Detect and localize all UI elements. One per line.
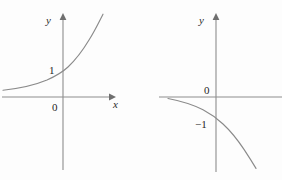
y-tick-label-minus-1: −1 [195,118,207,130]
left-chart-svg: y x 1 0 [0,0,141,180]
y-tick-label-1: 1 [49,64,55,76]
chart-panel-left: y x 1 0 [0,0,141,180]
chart-panel-right: y 0 −1 [141,0,282,180]
y-axis-arrow-icon [60,13,67,20]
y-axis-label: y [198,14,204,26]
x-axis-label: x [112,98,118,110]
decreasing-curve [168,99,256,169]
right-chart-svg: y 0 −1 [141,0,282,180]
origin-label: 0 [204,84,210,96]
origin-label: 0 [52,101,58,113]
y-axis-label: y [45,14,51,26]
y-axis-arrow-icon [213,13,220,20]
exponential-curve [3,14,103,90]
figure-root: y x 1 0 y 0 −1 [0,0,282,180]
